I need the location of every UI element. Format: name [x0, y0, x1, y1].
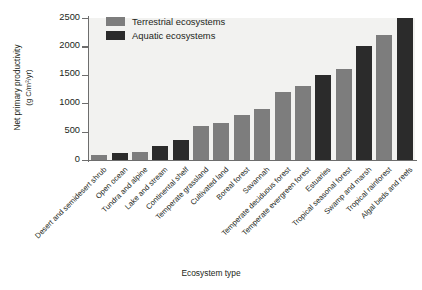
bar-aquatic [397, 18, 413, 160]
y-axis-tick [82, 103, 88, 104]
y-axis-tick-label: 2000 [40, 40, 80, 50]
bar-aquatic [152, 146, 168, 160]
bar-aquatic [173, 140, 189, 160]
y-axis-tick [82, 75, 88, 76]
legend-label: Terrestrial ecosystems [132, 16, 225, 27]
y-axis-tick [82, 46, 88, 47]
y-axis-tick [82, 160, 88, 161]
y-axis-tick-label: 1500 [40, 68, 80, 78]
y-axis-tick [82, 132, 88, 133]
y-axis-tick-label: 1000 [40, 97, 80, 107]
chart-figure: Net primary productivity (g C/m²/yr) 050… [0, 0, 422, 290]
y-axis-tick [82, 18, 88, 19]
bar-terrestrial [376, 35, 392, 160]
bar-terrestrial [213, 123, 229, 160]
legend-item: Terrestrial ecosystems [106, 16, 225, 27]
chart-legend: Terrestrial ecosystemsAquatic ecosystems [106, 16, 225, 44]
x-axis-title: Ecosystem type [0, 268, 422, 278]
legend-item: Aquatic ecosystems [106, 30, 225, 41]
bar-terrestrial [193, 126, 209, 160]
y-axis-title-line2: (g C/m²/yr) [23, 69, 32, 105]
y-axis-title: Net primary productivity (g C/m²/yr) [0, 0, 46, 175]
bar-terrestrial [234, 115, 250, 160]
bar-terrestrial [254, 109, 270, 160]
y-axis-tick-label: 2500 [40, 12, 80, 22]
x-axis-line [88, 160, 417, 161]
y-axis-tick-label: 500 [40, 125, 80, 135]
bar-aquatic [112, 153, 128, 160]
y-axis-title-line1: Net primary productivity [13, 45, 22, 131]
legend-label: Aquatic ecosystems [132, 30, 215, 41]
bar-terrestrial [275, 92, 291, 160]
legend-swatch [106, 31, 125, 40]
bar-terrestrial [295, 86, 311, 160]
legend-swatch [106, 17, 125, 26]
bar-terrestrial [336, 69, 352, 160]
bar-aquatic [315, 75, 331, 160]
bar-terrestrial [91, 155, 107, 160]
y-axis-line [88, 16, 89, 162]
y-axis-tick-label: 0 [40, 154, 80, 164]
bar-terrestrial [132, 152, 148, 160]
bar-aquatic [356, 46, 372, 160]
